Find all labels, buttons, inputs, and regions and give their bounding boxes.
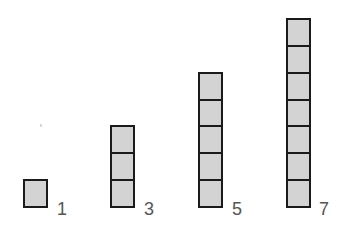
stack-count-label: 1	[57, 200, 67, 218]
unit-square	[286, 99, 311, 128]
square-stack-5	[198, 72, 223, 208]
unit-square	[198, 179, 223, 208]
stack-count-label: 7	[319, 200, 329, 218]
square-stack-1	[23, 179, 48, 208]
square-stack-7	[286, 18, 311, 208]
stack-count-label: 3	[144, 200, 154, 218]
unit-square	[198, 125, 223, 154]
unit-square	[198, 99, 223, 128]
scan-artifact	[40, 124, 42, 127]
unit-square	[286, 125, 311, 154]
unit-square	[110, 125, 135, 154]
unit-square	[286, 152, 311, 181]
unit-square	[198, 72, 223, 101]
unit-square	[110, 179, 135, 208]
unit-square	[286, 179, 311, 208]
unit-square	[286, 18, 311, 47]
unit-square	[198, 152, 223, 181]
unit-square	[286, 45, 311, 74]
stack-count-label: 5	[232, 200, 242, 218]
square-stack-3	[110, 125, 135, 208]
unit-square	[23, 179, 48, 208]
unit-square	[110, 152, 135, 181]
unit-square	[286, 72, 311, 101]
